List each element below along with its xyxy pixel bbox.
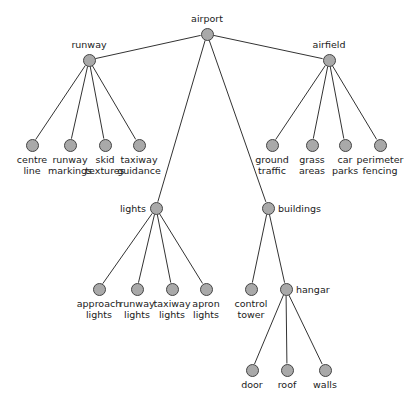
tree-node-skid_textures[interactable] [99,139,112,152]
tree-node-label-door: door [241,379,263,390]
tree-node-airfield[interactable] [323,54,336,67]
tree-node-roof[interactable] [281,364,294,377]
tree-node-label-grass_areas: grass areas [299,154,325,176]
tree-node-label-control_tower: control tower [235,298,268,320]
tree-node-control_tower[interactable] [245,283,258,296]
tree-node-buildings[interactable] [262,202,275,215]
tree-node-label-roof: roof [278,379,297,390]
tree-node-label-buildings: buildings [278,203,321,214]
tree-node-label-hangar: hangar [296,284,330,295]
tree-node-label-perimeter_fencing: perimeter fencing [357,154,404,176]
tree-node-lights[interactable] [150,202,163,215]
tree-node-walls[interactable] [319,364,332,377]
tree-node-label-car_parks: car parks [332,154,358,176]
tree-node-label-centre_line: centre line [17,154,47,176]
tree-node-runway[interactable] [83,54,96,67]
tree-node-label-ground_traffic: ground traffic [255,154,289,176]
tree-node-taxiway_guidance[interactable] [133,139,146,152]
tree-node-label-approach_lights: approach lights [77,298,121,320]
tree-node-car_parks[interactable] [339,139,352,152]
tree-node-label-airfield: airfield [313,39,346,50]
tree-node-label-runway: runway [71,39,106,50]
tree-diagram: airportrunwayairfieldcentre linerunway m… [0,0,419,402]
tree-node-runway_markings[interactable] [64,139,77,152]
tree-node-ground_traffic[interactable] [266,139,279,152]
tree-node-airport[interactable] [201,28,214,41]
tree-node-label-lights: lights [120,203,146,214]
tree-node-hangar[interactable] [280,283,293,296]
tree-node-label-taxiway_guidance: taxiway guidance [117,154,161,176]
tree-node-perimeter_fencing[interactable] [374,139,387,152]
tree-node-label-runway_lights: runway lights [119,298,154,320]
tree-node-label-airport: airport [191,13,223,24]
node-layer: airportrunwayairfieldcentre linerunway m… [0,0,419,402]
tree-node-approach_lights[interactable] [93,283,106,296]
tree-node-centre_line[interactable] [26,139,39,152]
tree-node-apron_lights[interactable] [200,283,213,296]
tree-node-label-walls: walls [313,379,337,390]
tree-node-grass_areas[interactable] [306,139,319,152]
tree-node-runway_lights[interactable] [131,283,144,296]
tree-node-door[interactable] [246,364,259,377]
tree-node-taxiway_lights[interactable] [166,283,179,296]
tree-node-label-taxiway_lights: taxiway lights [153,298,190,320]
tree-node-label-apron_lights: apron lights [192,298,219,320]
